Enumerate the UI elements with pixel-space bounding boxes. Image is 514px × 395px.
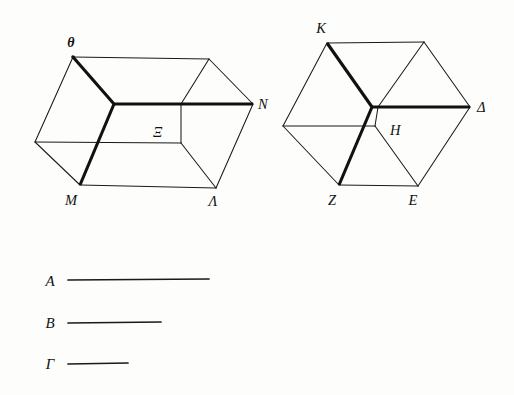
label-Lambda: Λ (207, 193, 218, 209)
segment-a-label: A (44, 273, 55, 289)
right-solid-thick-edge-center-Z (339, 107, 372, 185)
right-solid-edge-K-leftback (283, 43, 327, 126)
segment-gamma-line (68, 363, 128, 364)
left-solid-edge-theta-topright (73, 57, 209, 59)
label-H: H (389, 122, 402, 138)
right-solid-edge-center-topright (378, 42, 424, 107)
left-solid-edge-topright-N (209, 59, 253, 104)
segment-gamma-row: Γ (45, 356, 128, 372)
segment-a-row: A (44, 273, 209, 289)
label-M: M (64, 192, 78, 208)
left-solid-edge-leftback-M (35, 142, 80, 185)
segment-b-label: B (45, 315, 54, 331)
line-segment-group: A B Γ (44, 273, 209, 372)
left-parallelepiped: θ N Ξ M Λ (35, 35, 269, 209)
left-solid-edge-M-lambda (80, 185, 216, 188)
left-solid-edge-theta-leftback (35, 57, 73, 142)
label-E: E (408, 192, 418, 208)
segment-b-row: B (45, 315, 161, 331)
right-cube: K Δ H Z E (283, 20, 486, 208)
right-solid-edge-topright-delta (424, 42, 470, 107)
right-solid-edge-E-delta (418, 107, 470, 186)
label-Delta: Δ (476, 99, 486, 115)
left-solid-edge-leftback-midfront (35, 142, 181, 143)
label-theta: θ (67, 35, 75, 50)
left-solid-thick-edge-center-M (80, 104, 114, 185)
right-solid-edge-leftback-Z (283, 126, 339, 185)
right-solid-edge-midfront-center (375, 107, 378, 126)
left-solid-vertex-theta (71, 55, 75, 59)
label-K: K (315, 20, 327, 36)
segment-gamma-label: Γ (45, 356, 56, 372)
left-solid-thick-edge-theta-center (73, 57, 114, 104)
label-Z: Z (328, 192, 337, 208)
left-solid-edge-center-topright (181, 59, 209, 104)
segment-a-line (68, 279, 209, 280)
right-solid-edge-Z-E (339, 185, 418, 186)
right-solid-thick-edge-K-center (327, 43, 372, 107)
label-Xi: Ξ (153, 124, 163, 140)
right-solid-edge-K-topright (327, 42, 424, 43)
left-solid-edge-lambda-N (216, 104, 253, 188)
geometric-figure-canvas: θ N Ξ M Λ K Δ (0, 0, 514, 395)
left-solid-edge-midfront-lambda (181, 143, 216, 188)
segment-b-line (68, 322, 161, 323)
label-N: N (257, 96, 269, 112)
figure-root: θ N Ξ M Λ K Δ (0, 0, 514, 395)
